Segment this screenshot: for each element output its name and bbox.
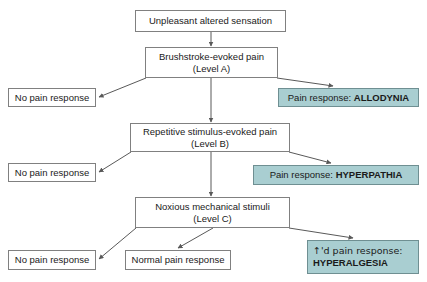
node-hyperpathia-term: HYPERPATHIA [336, 169, 403, 180]
node-level-c-normal-pain: Normal pain response [125, 250, 231, 270]
node-level-c-normal-pain-label: Normal pain response [132, 254, 225, 266]
node-root-label: Unpleasant altered sensation [149, 15, 272, 27]
node-hyperpathia-text: Pain response: HYPERPATHIA [270, 169, 403, 181]
node-hyperalgesia-lead: ↑'d pain response: [313, 245, 418, 257]
node-level-b-line2: (Level B) [191, 138, 229, 150]
node-hyperalgesia: ↑'d pain response: HYPERALGESIA [307, 240, 419, 274]
node-level-a-no-pain: No pain response [8, 88, 96, 107]
edge-level-c-to-normal-pain [178, 228, 213, 248]
node-level-c-line2: (Level C) [193, 213, 232, 225]
node-hyperpathia: Pain response: HYPERPATHIA [253, 165, 419, 185]
node-level-b: Repetitive stimulus-evoked pain (Level B… [130, 123, 290, 152]
flowchart-diagram: Unpleasant altered sensation Brushstroke… [0, 0, 427, 282]
node-level-a-no-pain-label: No pain response [15, 92, 89, 104]
node-allodynia-term: ALLODYNIA [354, 92, 409, 103]
node-level-c-line1: Noxious mechanical stimuli [155, 201, 270, 213]
node-level-c-no-pain: No pain response [8, 250, 96, 270]
edge-level-b-to-no-pain [99, 152, 131, 172]
node-level-c-no-pain-label: No pain response [15, 254, 89, 266]
node-level-a-line1: Brushstroke-evoked pain [159, 51, 264, 63]
node-root: Unpleasant altered sensation [135, 10, 286, 32]
edge-level-a-to-no-pain [99, 78, 146, 97]
node-level-a: Brushstroke-evoked pain (Level A) [145, 47, 278, 78]
node-level-c: Noxious mechanical stimuli (Level C) [135, 197, 290, 228]
edge-level-c-to-hyperalgesia [289, 228, 353, 238]
edge-level-b-to-hyperpathia [289, 152, 331, 163]
node-allodynia: Pain response: ALLODYNIA [278, 88, 419, 107]
node-level-b-no-pain-label: No pain response [15, 167, 89, 179]
node-level-b-no-pain: No pain response [8, 163, 96, 182]
node-hyperalgesia-term: HYPERALGESIA [313, 257, 418, 269]
edge-level-a-to-allodynia [277, 78, 333, 86]
node-level-a-line2: (Level A) [193, 63, 231, 75]
node-allodynia-text: Pain response: ALLODYNIA [288, 92, 409, 104]
node-allodynia-lead: Pain response: [288, 92, 354, 103]
node-level-b-line1: Repetitive stimulus-evoked pain [143, 126, 277, 138]
node-hyperpathia-lead: Pain response: [270, 169, 336, 180]
